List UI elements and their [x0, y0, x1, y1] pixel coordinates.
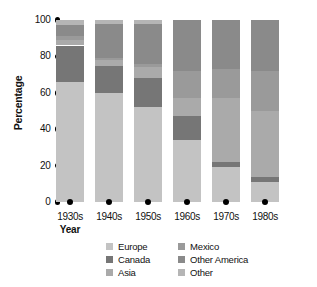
legend-item-label: Mexico: [190, 241, 219, 252]
bar-segment[interactable]: [95, 93, 123, 202]
bar-column[interactable]: [95, 20, 123, 202]
bar-column[interactable]: [173, 20, 201, 202]
bar-segment[interactable]: [134, 78, 162, 107]
stacked-bar-chart: Percentage 100806040200 1930s1940s1950s1…: [0, 0, 317, 287]
bar-stack: [95, 20, 123, 202]
legend-swatch-canada: [106, 256, 113, 263]
chart-legend: EuropeCanadaAsiaMexicoOther AmericaOther: [106, 241, 306, 278]
bar-stack: [173, 20, 201, 202]
bar-segment[interactable]: [212, 162, 240, 167]
x-axis-tick: 1940s: [95, 202, 123, 222]
bar-segment[interactable]: [95, 58, 123, 60]
legend-swatch-other-america: [178, 256, 185, 263]
legend-item[interactable]: Other America: [178, 254, 248, 265]
bar-column[interactable]: [134, 20, 162, 202]
legend-swatch-mexico: [178, 243, 185, 250]
legend-column: EuropeCanadaAsia: [106, 241, 150, 278]
bar-segment[interactable]: [173, 116, 201, 140]
bar-segment[interactable]: [95, 60, 123, 65]
x-axis-tick-label: 1930s: [56, 211, 84, 222]
bar-segment[interactable]: [134, 20, 162, 24]
bar-segment[interactable]: [95, 24, 123, 59]
x-axis-tick-label: 1940s: [95, 211, 123, 222]
y-axis-tick: 80: [18, 50, 60, 62]
bar-segment[interactable]: [134, 64, 162, 68]
x-axis-tick: 1960s: [173, 202, 201, 222]
bar-segment[interactable]: [173, 140, 201, 202]
tick-dot-icon: [184, 199, 190, 205]
bar-segment[interactable]: [56, 20, 84, 25]
tick-dot-icon: [223, 199, 229, 205]
x-axis-tick: 1980s: [251, 202, 279, 222]
tick-dot-icon: [106, 199, 112, 205]
y-axis-tick-label: 80: [40, 50, 51, 62]
legend-swatch-europe: [106, 243, 113, 250]
tick-dot-icon: [145, 199, 151, 205]
bar-segment[interactable]: [56, 36, 84, 40]
x-axis-title: Year: [56, 224, 84, 235]
tick-dot-icon: [262, 199, 268, 205]
x-axis-ticks: 1930s1940s1950s1960s1970s1980s: [56, 202, 288, 242]
y-axis-tick: 20: [18, 160, 60, 172]
bar-segment[interactable]: [173, 71, 201, 98]
y-axis-tick-label: 40: [40, 123, 51, 135]
bar-stack: [251, 20, 279, 202]
x-axis-tick: 1970s: [212, 202, 240, 222]
bar-segment[interactable]: [56, 25, 84, 36]
bar-segment[interactable]: [134, 24, 162, 64]
bar-segment[interactable]: [212, 98, 240, 162]
y-axis-ticks: 100806040200: [18, 0, 60, 287]
bar-segment[interactable]: [212, 20, 240, 69]
bar-segment[interactable]: [251, 111, 279, 177]
bar-segment[interactable]: [173, 20, 201, 71]
legend-swatch-asia: [106, 269, 113, 276]
bar-segment[interactable]: [56, 46, 84, 82]
y-axis-tick: 100: [18, 14, 60, 26]
legend-item[interactable]: Other: [178, 267, 248, 278]
legend-swatch-other: [178, 269, 185, 276]
legend-item[interactable]: Europe: [106, 241, 150, 252]
legend-item[interactable]: Mexico: [178, 241, 248, 252]
bar-segment[interactable]: [251, 177, 279, 182]
bar-stack: [134, 20, 162, 202]
y-axis-tick-label: 60: [40, 87, 51, 99]
legend-item[interactable]: Canada: [106, 254, 150, 265]
bar-column[interactable]: [251, 20, 279, 202]
legend-item-label: Europe: [118, 241, 147, 252]
y-axis-tick: 40: [18, 123, 60, 135]
legend-item-label: Other: [190, 267, 213, 278]
bar-segment[interactable]: [173, 98, 201, 116]
tick-dot-icon: [67, 199, 73, 205]
legend-item-label: Canada: [118, 254, 150, 265]
bar-segment[interactable]: [95, 20, 123, 24]
y-axis-tick-label: 100: [35, 14, 51, 26]
y-axis-tick: 0: [18, 196, 60, 208]
bar-segment[interactable]: [212, 69, 240, 98]
legend-item-label: Asia: [118, 267, 136, 278]
legend-column: MexicoOther AmericaOther: [178, 241, 248, 278]
x-axis-tick-label: 1970s: [212, 211, 240, 222]
legend-item[interactable]: Asia: [106, 267, 150, 278]
bar-segment[interactable]: [56, 40, 84, 45]
x-axis-tick: 1930s: [56, 202, 84, 222]
bar-column[interactable]: [56, 20, 84, 202]
x-axis-tick-label: 1950s: [134, 211, 162, 222]
bar-column[interactable]: [212, 20, 240, 202]
plot-area: [56, 20, 288, 202]
y-axis-tick: 60: [18, 87, 60, 99]
x-axis-tick-label: 1980s: [251, 211, 279, 222]
bar-stack: [56, 20, 84, 202]
x-axis-tick: 1950s: [134, 202, 162, 222]
bar-segment[interactable]: [95, 66, 123, 93]
bar-segment[interactable]: [134, 67, 162, 78]
bar-segment[interactable]: [56, 82, 84, 202]
x-axis-tick-label: 1960s: [173, 211, 201, 222]
y-axis-tick-label: 0: [45, 196, 50, 208]
bar-segment[interactable]: [212, 167, 240, 202]
bar-stack: [212, 20, 240, 202]
bar-segment[interactable]: [134, 107, 162, 202]
bar-segment[interactable]: [251, 20, 279, 71]
bar-segment[interactable]: [251, 71, 279, 111]
y-axis-tick-label: 20: [40, 160, 51, 172]
legend-item-label: Other America: [190, 254, 248, 265]
